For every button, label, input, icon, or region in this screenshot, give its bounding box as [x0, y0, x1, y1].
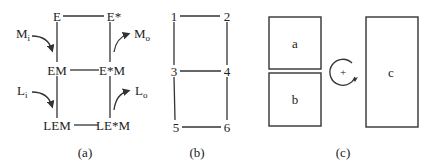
caption-a: (a) — [78, 145, 92, 160]
node-lestarm: LE*M — [96, 118, 130, 133]
node-estar: E* — [107, 9, 121, 24]
arrow-m-in-icon — [32, 36, 52, 50]
node-5: 5 — [173, 120, 180, 135]
node-6: 6 — [224, 120, 231, 135]
node-lem: LEM — [43, 118, 71, 133]
box-c-label: c — [388, 65, 394, 80]
diagram-canvas: E E* EM E*M LEM LE*M Mi Mo Li Lo (a) 1 2… — [0, 0, 434, 164]
label-l-in: Li — [17, 83, 28, 100]
node-3: 3 — [171, 64, 178, 79]
rotation-arrowhead-icon — [353, 77, 358, 82]
arrow-m-out-icon — [114, 34, 128, 52]
rotation-plus-symbol: + — [340, 66, 346, 78]
caption-c: (c) — [336, 145, 350, 160]
label-l-out: Lo — [135, 83, 148, 100]
label-m-in: Mi — [16, 26, 31, 43]
box-b-label: b — [292, 92, 299, 107]
node-em: EM — [47, 63, 67, 78]
arrow-l-out-icon — [114, 91, 128, 110]
panel-b: 1 2 3 4 5 6 (b) — [171, 9, 231, 160]
caption-b: (b) — [189, 145, 204, 160]
arrow-l-in-icon — [32, 92, 52, 106]
panel-a: E E* EM E*M LEM LE*M Mi Mo Li Lo (a) — [16, 9, 151, 160]
node-2: 2 — [224, 9, 231, 24]
node-1: 1 — [171, 9, 178, 24]
box-a-label: a — [292, 36, 298, 51]
edge-3-5 — [174, 77, 175, 120]
panel-c: a b c + (c) — [269, 17, 418, 160]
node-estarm: E*M — [99, 63, 125, 78]
node-4: 4 — [224, 64, 231, 79]
label-m-out: Mo — [134, 26, 151, 43]
node-e: E — [53, 9, 61, 24]
